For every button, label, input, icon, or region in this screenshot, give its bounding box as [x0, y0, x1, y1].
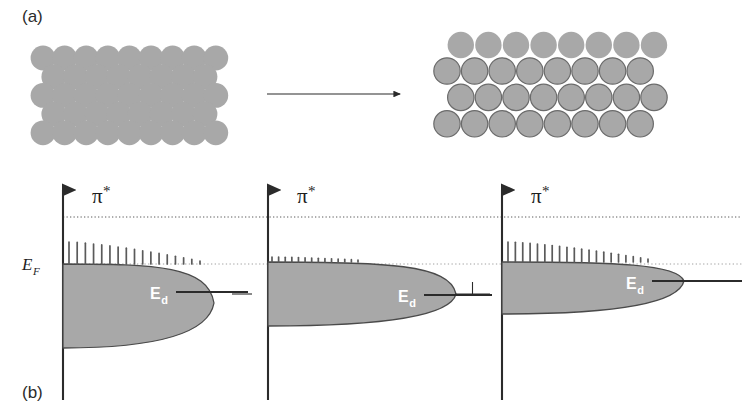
- lattice-atom: [160, 120, 185, 145]
- lattice-atom-top: [448, 32, 474, 58]
- pi-star-asterisk: *: [308, 183, 316, 199]
- lattice-atom: [31, 120, 56, 145]
- lattice-atom-outlined: [572, 58, 598, 84]
- lattice-atom-outlined: [544, 58, 570, 84]
- lattice-atom-outlined: [599, 111, 625, 137]
- lattice-atom-outlined: [489, 58, 515, 84]
- lattice-atom-top: [475, 32, 501, 58]
- lattice-atom: [117, 120, 142, 145]
- lattice-atom-top: [530, 32, 556, 58]
- lattice-atom-outlined: [475, 84, 501, 110]
- lattice-atom-outlined: [586, 84, 612, 110]
- unstrained-close-packed-lattice: [31, 46, 229, 146]
- lattice-atom-outlined: [641, 84, 667, 110]
- lattice-atom-outlined: [572, 111, 598, 137]
- lattice-atom-outlined: [613, 84, 639, 110]
- lattice-atom-outlined: [517, 58, 543, 84]
- lattice-atom-top: [613, 32, 639, 58]
- lattice-atom-outlined: [448, 84, 474, 110]
- lattice-atom-outlined: [530, 84, 556, 110]
- pi-star-asterisk: *: [103, 183, 111, 199]
- lattice-atom-outlined: [627, 111, 653, 137]
- ed-subscript: d: [409, 297, 416, 309]
- lattice-atom-outlined: [434, 58, 460, 84]
- lattice-atom: [182, 120, 207, 145]
- lattice-atom-top: [503, 32, 529, 58]
- pi-star-asterisk: *: [542, 183, 550, 199]
- lattice-atom-outlined: [503, 84, 529, 110]
- lattice-atom-outlined: [489, 111, 515, 137]
- ed-subscript: d: [161, 294, 168, 306]
- figure-canvas: Edπ*Edπ*Edπ* EF (a)(b): [0, 0, 749, 419]
- lattice-atom: [139, 120, 164, 145]
- lattice-atom-outlined: [517, 111, 543, 137]
- lattice-atom-top: [641, 32, 667, 58]
- lattice-atom-outlined: [599, 58, 625, 84]
- lattice-atom-top: [558, 32, 584, 58]
- lattice-atom-outlined: [627, 58, 653, 84]
- lattice-atom-outlined: [461, 58, 487, 84]
- lattice-atom: [52, 120, 77, 145]
- ed-subscript: d: [637, 284, 644, 296]
- lattice-atom: [95, 120, 120, 145]
- lattice-atom: [203, 120, 228, 145]
- ef-subscript: F: [32, 265, 40, 277]
- figure-root: Edπ*Edπ*Edπ* EF (a)(b): [0, 0, 749, 419]
- lattice-atom-outlined: [434, 111, 460, 137]
- panel-label-b: (b): [22, 383, 43, 402]
- panel-label-a: (a): [22, 7, 43, 26]
- lattice-atom-outlined: [544, 111, 570, 137]
- lattice-atom: [74, 120, 99, 145]
- lattice-atom-outlined: [558, 84, 584, 110]
- lattice-atom-outlined: [461, 111, 487, 137]
- lattice-atom-top: [586, 32, 612, 58]
